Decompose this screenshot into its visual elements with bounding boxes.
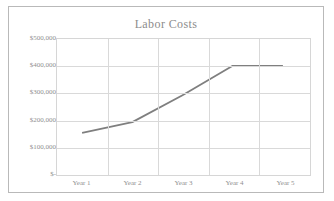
gridline-horizontal: [57, 66, 310, 67]
gridline-vertical: [158, 39, 159, 175]
y-axis-tick-label: $300,000: [8, 88, 56, 96]
y-axis-tick-label: $200,000: [8, 116, 56, 124]
gridline-horizontal: [57, 148, 310, 149]
x-axis-tick-label: Year 5: [260, 179, 311, 195]
gridline-vertical: [209, 39, 210, 175]
plot-area: [56, 38, 311, 176]
x-axis-labels: Year 1Year 2Year 3Year 4Year 5: [56, 179, 311, 195]
gridline-vertical: [259, 39, 260, 175]
line-series-labor-costs: [57, 39, 310, 175]
y-axis-tick-label: $-: [8, 170, 56, 178]
x-axis-tick-label: Year 4: [209, 179, 260, 195]
x-axis-tick-label: Year 1: [56, 179, 107, 195]
x-axis-tick-label: Year 2: [107, 179, 158, 195]
gridline-horizontal: [57, 93, 310, 94]
x-axis-tick-label: Year 3: [158, 179, 209, 195]
chart-frame: Labor Costs $500,000$400,000$300,000$200…: [8, 6, 324, 193]
y-axis-tick-label: $100,000: [8, 143, 56, 151]
y-axis-tick-label: $400,000: [8, 61, 56, 69]
chart-title: Labor Costs: [9, 17, 323, 32]
series-line: [82, 66, 283, 133]
gridline-vertical: [108, 39, 109, 175]
y-axis-labels: $500,000$400,000$300,000$200,000$100,000…: [9, 38, 56, 176]
y-axis-tick-label: $500,000: [8, 34, 56, 42]
gridline-horizontal: [57, 121, 310, 122]
